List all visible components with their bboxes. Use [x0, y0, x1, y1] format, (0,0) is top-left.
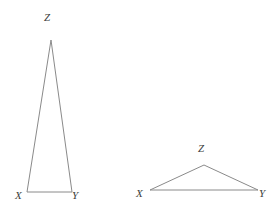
triangle-right-vertex-label-z: Z [198, 143, 204, 154]
triangle-right-vertex-label-x: X [136, 188, 143, 199]
triangle-left-shape [27, 40, 72, 192]
triangle-right-shape [150, 165, 258, 190]
triangle-left-vertex-label-y: Y [72, 190, 78, 201]
geometry-figure: Z X Y Z X Y [0, 0, 279, 215]
triangle-left-vertex-label-z: Z [44, 12, 50, 23]
triangle-right-vertex-label-y: Y [259, 188, 265, 199]
figure-canvas [0, 0, 279, 215]
triangle-left-vertex-label-x: X [15, 190, 22, 201]
